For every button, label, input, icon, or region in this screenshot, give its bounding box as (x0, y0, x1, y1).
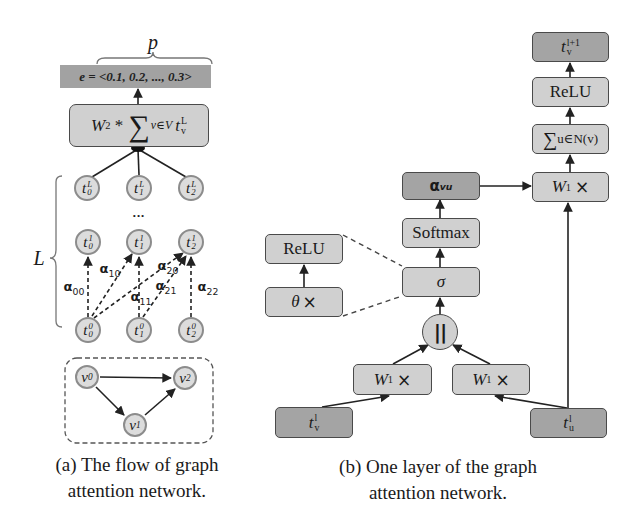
dimension-label-p: p (148, 31, 158, 54)
node-t0-0: t00 (75, 317, 101, 343)
caption-b-line-1: (b) One layer of the graph (339, 454, 537, 480)
aggregate-box: ∑u∈N(v) (532, 124, 609, 154)
caption-b: (b) One layer of the graph attention net… (339, 454, 537, 506)
node-base: t (83, 234, 87, 251)
attention-weight-22: α22 (198, 279, 219, 297)
readout-t-sub: v (181, 126, 187, 135)
node-base: t (186, 180, 190, 197)
node-sub: 0 (87, 188, 92, 196)
output-box: tl+1v (532, 32, 609, 62)
w1-transform-left-box: W1× (353, 364, 432, 395)
theta-box: θ× (265, 287, 343, 317)
readout-operator: * (110, 116, 127, 136)
sum-subscript: v∈V (151, 118, 172, 133)
caption-a: (a) The flow of graph attention network. (55, 452, 218, 504)
node-base: t (134, 322, 138, 339)
node-sub: 2 (191, 242, 195, 250)
node-sub: 1 (139, 330, 143, 338)
node-sub: 1 (139, 188, 144, 196)
brace-p (97, 52, 212, 64)
attention-coefficient-box: αvu (402, 172, 480, 200)
caption-a-line-2: attention network. (55, 478, 218, 504)
node-base: t (82, 180, 86, 197)
readout-box: W2 * ∑v∈V tLv (69, 104, 209, 147)
node-t1-L: tL1 (126, 175, 152, 201)
node-sub: 2 (191, 330, 195, 338)
node-sub: 0 (88, 372, 93, 382)
graph-node-v1: v1 (123, 413, 147, 437)
readout-weight: W (91, 116, 105, 136)
node-base: v (81, 369, 88, 386)
node-sub: 0 (88, 330, 92, 338)
caption-b-line-2: attention network. (339, 480, 537, 506)
ellipsis: ••• (133, 211, 145, 221)
sigma-box: σ (402, 267, 480, 297)
node-base: t (134, 234, 138, 251)
attention-weight-10: α10 (100, 261, 121, 279)
node-base: t (83, 322, 87, 339)
node-t2-L: tL2 (178, 175, 204, 201)
node-base: v (179, 370, 186, 387)
figure-canvas: p e = <0.1, 0.2, ..., 0.3> W2 * ∑v∈V tLv… (0, 0, 639, 531)
node-sub: 2 (186, 373, 191, 383)
node-t0-1: t10 (75, 229, 101, 255)
node-sub: 1 (139, 242, 143, 250)
layer-count-label: L (33, 247, 44, 270)
node-t2-1: t12 (178, 229, 204, 255)
node-sub: 1 (136, 420, 141, 430)
input-tv-box: tlv (275, 407, 353, 438)
graph-node-v0: v0 (75, 365, 99, 389)
graph-node-v2: v2 (173, 366, 197, 390)
node-base: v (129, 417, 136, 434)
node-base: t (186, 322, 190, 339)
w1-transform-right-box: W1× (452, 364, 530, 395)
node-t1-1: t11 (126, 229, 152, 255)
sum-symbol: ∑ (128, 111, 149, 141)
node-t2-0: t02 (178, 317, 204, 343)
attention-weight-11: α11 (131, 289, 152, 307)
attention-weight-21: α21 (156, 278, 177, 296)
node-base: t (186, 234, 190, 251)
caption-a-line-1: (a) The flow of graph (55, 452, 218, 478)
input-tu-box: tlu (530, 408, 607, 438)
node-base: t (134, 180, 138, 197)
node-t1-0: t01 (126, 317, 152, 343)
node-t0-L: tL0 (74, 175, 100, 201)
attention-weight-20: α20 (158, 258, 179, 276)
readout-t: t (175, 116, 180, 136)
concat-operator: || (422, 314, 458, 350)
relu-output-box: ReLU (532, 77, 609, 107)
node-sub: 2 (191, 188, 196, 196)
softmax-box: Softmax (402, 218, 480, 248)
embedding-vector: e = <0.1, 0.2, ..., 0.3> (60, 65, 211, 88)
w1-transform-top-box: W1× (532, 172, 609, 202)
brace-L (50, 176, 62, 327)
node-sub: 0 (88, 242, 92, 250)
relu-side-box: ReLU (265, 234, 343, 264)
attention-weight-00: α00 (64, 279, 85, 297)
